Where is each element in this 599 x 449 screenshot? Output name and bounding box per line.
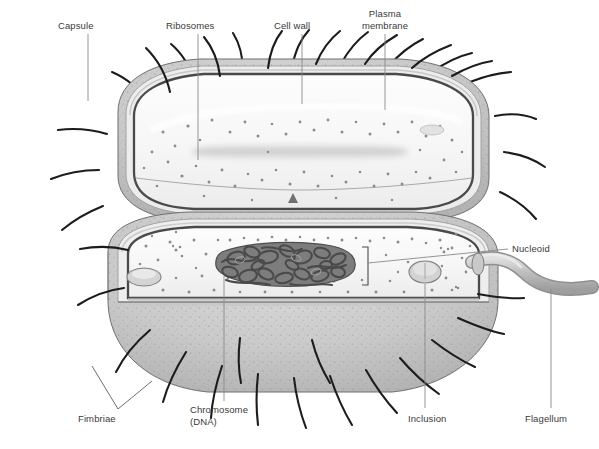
leader-fimbriae-bracket	[92, 366, 152, 409]
label-flagellum: Flagellum	[525, 413, 567, 425]
chromosome-dna	[216, 242, 355, 286]
nucleoid-shadow-upper	[192, 143, 408, 161]
figure-canvas: Capsule Ribosomes Cell wall Plasma membr…	[0, 0, 599, 449]
label-fimbriae: Fimbriae	[78, 413, 116, 425]
inclusion-granule-left	[127, 268, 161, 286]
lower-cell-body	[108, 212, 498, 392]
label-nucleoid: Nucleoid	[512, 243, 550, 255]
label-ribosomes: Ribosomes	[166, 20, 214, 32]
upper-cell-body	[118, 59, 489, 221]
label-inclusion: Inclusion	[408, 413, 446, 425]
bacterial-cell-diagram	[0, 0, 599, 449]
label-plasma-membrane: Plasma membrane	[349, 8, 421, 31]
label-cell-wall: Cell wall	[274, 20, 310, 32]
plasma-membrane-upper	[134, 74, 473, 209]
label-chromosome-dna: Chromosome (DNA)	[190, 404, 248, 427]
inclusion-granule-right	[409, 261, 441, 283]
label-capsule: Capsule	[58, 20, 94, 32]
